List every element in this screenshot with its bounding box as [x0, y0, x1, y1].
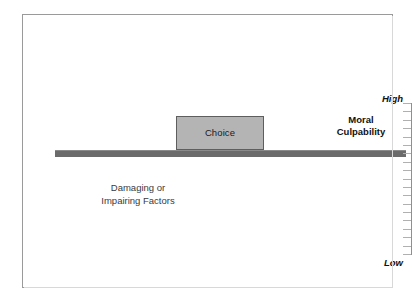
ruler-tick	[403, 179, 411, 180]
ruler-tick	[403, 128, 411, 129]
diagram-frame: Choice Moral Culpability Damaging or Imp…	[22, 14, 393, 288]
horizontal-beam	[55, 150, 406, 157]
choice-block[interactable]: Choice	[176, 116, 264, 150]
ruler-tick-marks	[403, 103, 411, 255]
ruler-tick	[403, 145, 411, 146]
ruler-tick	[403, 254, 411, 255]
ruler-tick	[403, 212, 411, 213]
moral-culpability-line-1: Moral	[319, 114, 403, 126]
ruler-tick	[403, 220, 411, 221]
ruler-tick	[403, 111, 411, 112]
ruler-tick	[403, 153, 411, 154]
ruler-tick	[403, 162, 411, 163]
moral-culpability-line-2: Culpability	[319, 126, 403, 138]
ruler-tick	[403, 170, 411, 171]
ruler-tick	[403, 237, 411, 238]
vertical-scale-ruler	[403, 103, 412, 255]
damaging-factors-line-2: Impairing Factors	[73, 194, 203, 207]
ruler-tick	[403, 103, 411, 104]
ruler-tick	[403, 120, 411, 121]
ruler-tick	[403, 187, 411, 188]
ruler-tick	[403, 204, 411, 205]
ruler-tick	[403, 229, 411, 230]
moral-culpability-label: Moral Culpability	[319, 114, 403, 138]
ruler-tick	[403, 195, 411, 196]
damaging-factors-line-1: Damaging or	[73, 181, 203, 194]
damaging-factors-label: Damaging or Impairing Factors	[73, 181, 203, 207]
scale-high-label: High	[363, 93, 403, 104]
scale-low-label: Low	[363, 257, 403, 268]
ruler-tick	[403, 246, 411, 247]
choice-block-label: Choice	[205, 128, 235, 138]
ruler-tick	[403, 137, 411, 138]
